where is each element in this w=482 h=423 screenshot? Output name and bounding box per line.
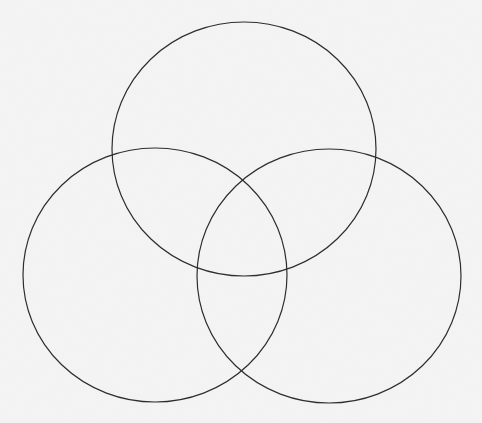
venn-diagram xyxy=(0,0,482,423)
paper-background xyxy=(0,0,482,423)
venn-diagram-canvas xyxy=(0,0,482,423)
